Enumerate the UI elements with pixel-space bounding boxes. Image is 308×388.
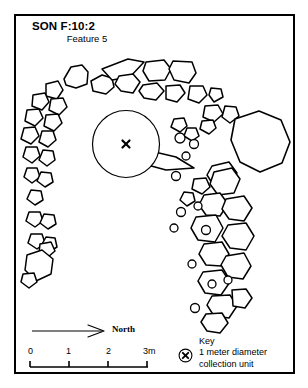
scale-tick-label-1: 1: [66, 346, 71, 356]
key-title: Key: [199, 336, 294, 347]
scale-unit-label: m: [148, 346, 156, 356]
circled-x-icon: [178, 348, 193, 363]
scale-tick-label-0: 0: [28, 346, 33, 356]
scale-tick-label-2: 2: [106, 346, 111, 356]
collection-unit-circle: [93, 111, 160, 178]
rock-outlines-top-arc: [64, 59, 239, 123]
scale-bar: 0 1 2 3 m: [28, 346, 168, 374]
north-arrow: North: [30, 322, 150, 344]
key-description-line-2: collection unit: [199, 359, 294, 370]
key-description-line-1: 1 meter diameter: [199, 347, 294, 358]
map-key: Key 1 meter diameter collection unit: [178, 336, 293, 376]
key-text-block: Key 1 meter diameter collection unit: [199, 336, 294, 370]
scale-bar-graphic: [28, 359, 158, 373]
rock-outline-large-boulder: [231, 111, 290, 172]
site-map-figure: SON F:10:2 Feature 5: [0, 0, 308, 388]
rock-outlines-left-edge: [21, 81, 67, 252]
north-label: North: [112, 324, 135, 334]
rock-feature-plan: [16, 16, 293, 372]
map-drawing-area: [16, 16, 293, 372]
